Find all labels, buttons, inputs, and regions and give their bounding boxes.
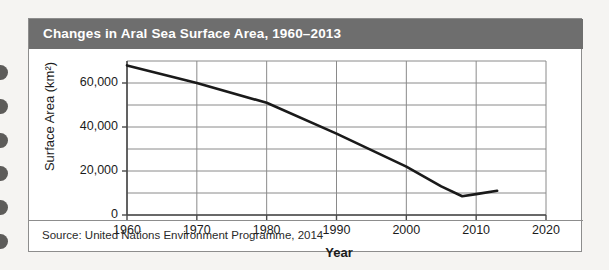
- binding-hole: [0, 166, 8, 181]
- spiral-binding: [0, 0, 16, 270]
- binding-hole: [0, 234, 8, 249]
- y-tick-label: 60,000: [60, 75, 118, 89]
- y-tick-label: 40,000: [60, 119, 118, 133]
- figure-card: Changes in Aral Sea Surface Area, 1960–2…: [28, 18, 582, 252]
- chart-plot-region: Surface Area (km²) 020,00040,00060,000 1…: [29, 49, 583, 219]
- figure-title-bar: Changes in Aral Sea Surface Area, 1960–2…: [29, 19, 583, 49]
- axis-ticks: [122, 83, 546, 220]
- y-tick-label: 20,000: [60, 163, 118, 177]
- source-note: Source: United Nations Environment Progr…: [42, 229, 323, 241]
- binding-hole: [0, 99, 8, 114]
- binding-hole: [0, 65, 8, 80]
- source-note-region: Source: United Nations Environment Progr…: [29, 220, 583, 253]
- binding-hole: [0, 200, 8, 215]
- data-series-line: [127, 65, 497, 196]
- page-title: Changes in Aral Sea Surface Area, 1960–2…: [43, 26, 341, 41]
- binding-hole: [0, 133, 8, 148]
- y-tick-label: 0: [60, 207, 118, 221]
